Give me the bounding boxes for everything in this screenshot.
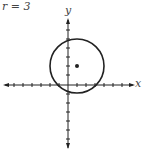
y-axis-down-arrow xyxy=(66,143,70,149)
circle-center-point xyxy=(75,64,79,68)
y-axis-up-arrow xyxy=(66,18,70,24)
x-axis-left-arrow xyxy=(3,83,9,87)
x-axis-right-arrow xyxy=(129,83,135,87)
coordinate-plane xyxy=(0,0,146,150)
